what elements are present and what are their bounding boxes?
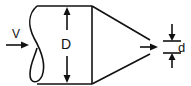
d-arrowhead-down-icon bbox=[169, 34, 176, 41]
inlet-diameter-label: D bbox=[61, 36, 71, 52]
d-arrowhead-up-icon bbox=[169, 53, 176, 60]
nozzle-upper-cone bbox=[92, 6, 150, 40]
nozzle-lower-cone bbox=[92, 54, 150, 84]
velocity-arrowhead-icon bbox=[21, 42, 29, 49]
break-line bbox=[30, 6, 44, 82]
jet-arrowhead-icon bbox=[150, 44, 158, 51]
outlet-diameter-label: d bbox=[178, 40, 185, 55]
velocity-label: V bbox=[12, 27, 20, 41]
D-arrowhead-down-icon bbox=[64, 75, 71, 83]
nozzle-diagram: V D d bbox=[0, 0, 191, 86]
D-arrowhead-up-icon bbox=[64, 7, 71, 15]
